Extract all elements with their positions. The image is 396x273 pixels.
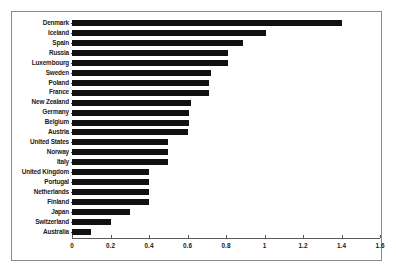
bar [72,229,91,235]
bar [72,169,149,175]
bar-row [72,40,380,46]
bar-row [72,179,380,185]
category-label: Spain [12,40,69,46]
bars-area [72,18,383,237]
bar [72,60,228,66]
x-axis-tick [380,235,381,238]
bar [72,149,168,155]
category-label: Denmark [12,20,69,26]
x-axis-tick [149,235,150,238]
bar-row [72,80,380,86]
category-label: Germany [12,109,69,115]
category-label: Netherlands [12,189,69,195]
category-label: Sweden [12,70,69,76]
bar-row [72,159,380,165]
bar-row [72,100,380,106]
bar-row [72,110,380,116]
bar [72,110,189,116]
x-axis-tick-label: 0.4 [134,242,164,249]
x-axis-tick-label: 1.6 [365,242,395,249]
bar-row [72,169,380,175]
bar [72,30,266,36]
x-axis-tick [111,235,112,238]
category-label: Russia [12,50,69,56]
category-label: Finland [12,199,69,205]
bar-row [72,219,380,225]
bar-row [72,30,380,36]
category-label: Luxembourg [12,60,69,66]
category-label: Switzerland [12,219,69,225]
category-label: New Zealand [12,99,69,105]
x-axis-tick [303,235,304,238]
bar [72,209,130,215]
category-label: Italy [12,159,69,165]
category-label: United States [12,139,69,145]
bar-chart-figure: DenmarkIcelandSpainRussiaLuxembourgSwede… [0,0,396,273]
bar [72,20,342,26]
bar-row [72,90,380,96]
x-axis-tick-label: 1.4 [327,242,357,249]
plot-inner: DenmarkIcelandSpainRussiaLuxembourgSwede… [12,12,383,262]
bar-row [72,189,380,195]
category-label: Austria [12,129,69,135]
bar [72,70,211,76]
category-axis: DenmarkIcelandSpainRussiaLuxembourgSwede… [12,18,71,237]
x-axis-tick-label: 0.6 [173,242,203,249]
bar-row [72,70,380,76]
bar [72,219,111,225]
plot-frame: DenmarkIcelandSpainRussiaLuxembourgSwede… [11,11,382,261]
bar-row [72,50,380,56]
x-axis-tick [226,235,227,238]
bar-row [72,149,380,155]
category-label: Norway [12,149,69,155]
category-label: Australia [12,229,69,235]
x-axis-tick-label: 0.8 [211,242,241,249]
bar [72,159,168,165]
x-axis-tick [72,235,73,238]
bar [72,189,149,195]
x-axis-tick-label: 0 [57,242,87,249]
bar [72,100,191,106]
bar-row [72,139,380,145]
category-label: Japan [12,209,69,215]
bar [72,139,168,145]
x-axis-tick-label: 1 [250,242,280,249]
bar-row [72,60,380,66]
bar [72,50,228,56]
category-label: Belgium [12,119,69,125]
x-axis-tick [342,235,343,238]
bar-row [72,209,380,215]
bar [72,199,149,205]
category-label: Poland [12,80,69,86]
bar-row [72,129,380,135]
x-axis-tick-label: 0.2 [96,242,126,249]
bar [72,80,209,86]
bar-row [72,120,380,126]
bar [72,120,189,126]
x-axis-tick [188,235,189,238]
bar [72,40,243,46]
category-label: Portugal [12,179,69,185]
bar [72,129,188,135]
x-axis-tick-label: 1.2 [288,242,318,249]
value-axis-line [72,238,380,239]
category-label: United Kingdom [12,169,69,175]
bar [72,179,149,185]
bar-row [72,199,380,205]
bar [72,90,209,96]
value-axis: 00.20.40.60.811.21.41.6 [72,238,383,262]
category-label: Iceland [12,30,69,36]
x-axis-tick [265,235,266,238]
bar-row [72,20,380,26]
category-label: France [12,89,69,95]
